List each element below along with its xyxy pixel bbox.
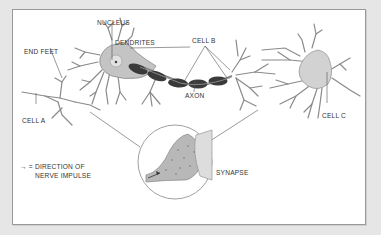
label-cell-a: CELL A [22,117,45,125]
label-dendrites: DENDRITES [115,39,155,47]
label-cell-b: CELL B [192,37,216,45]
label-end-feet: END FEET [24,48,58,56]
label-nucleus: NUCLEUS [97,19,130,27]
label-axon: AXON [185,92,205,100]
label-synapse: SYNAPSE [216,169,249,177]
label-cell-c: CELL C [322,112,346,120]
legend-symbol: → = [20,163,33,171]
synapse-illustration [138,125,212,199]
legend-line-2: NERVE IMPULSE [35,172,91,180]
legend-line-1: DIRECTION OF [35,163,85,171]
nucleolus [115,61,118,64]
axon-terminal-branches [232,40,275,110]
